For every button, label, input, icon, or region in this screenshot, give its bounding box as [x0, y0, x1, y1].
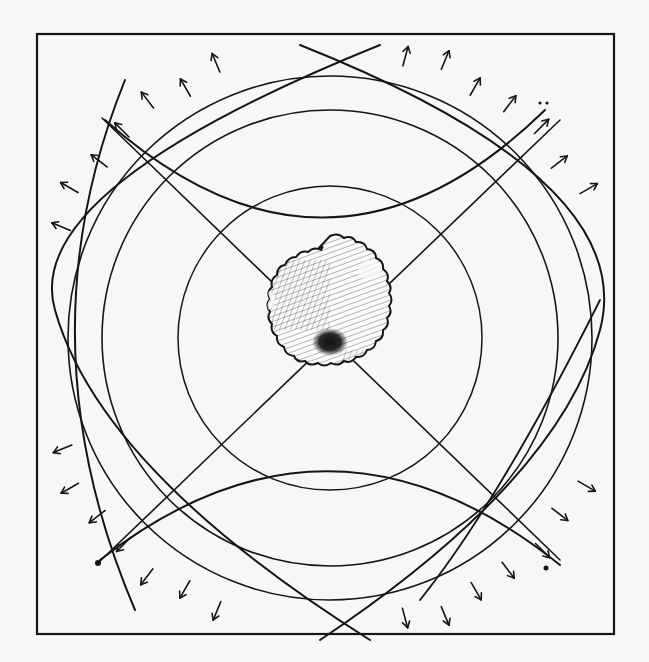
illustration: Hand-drawn radiating circles diagram	[0, 0, 649, 662]
arrow-outward-icon	[441, 607, 450, 625]
arrow-outward-icon	[180, 581, 190, 598]
arrow-outward-icon	[535, 119, 549, 133]
arrow-outward-icon	[53, 445, 71, 454]
arrow-outward-icon	[502, 562, 514, 578]
arrow-outward-icon	[471, 583, 481, 600]
arrow-outward-icon	[536, 544, 550, 558]
arrow-outward-icon	[211, 54, 220, 72]
arrow-outward-icon	[441, 51, 450, 69]
arrow-outward-icon	[552, 508, 568, 520]
arrow-outward-icon	[141, 569, 153, 585]
arrow-outward-icon	[180, 79, 190, 96]
arrow-outward-icon	[52, 222, 70, 231]
arrow-outward-icon	[61, 483, 78, 493]
arrow-outward-icon	[61, 182, 78, 192]
arrow-outward-icon	[578, 481, 595, 491]
arrow-outward-icon	[141, 92, 153, 108]
arrow-outward-icon	[551, 156, 567, 168]
arrow-outward-icon	[403, 46, 410, 65]
top-lens-arc	[105, 110, 545, 218]
arrow-outward-icon	[580, 183, 597, 193]
left-lens-arc	[75, 80, 135, 610]
hatched-core	[230, 230, 430, 450]
arrow-outward-icon	[470, 78, 480, 95]
arrow-outward-icon	[504, 96, 516, 112]
drawing-canvas	[0, 0, 649, 662]
arrow-outward-icon	[402, 608, 409, 627]
arrow-outward-icon	[212, 602, 221, 620]
